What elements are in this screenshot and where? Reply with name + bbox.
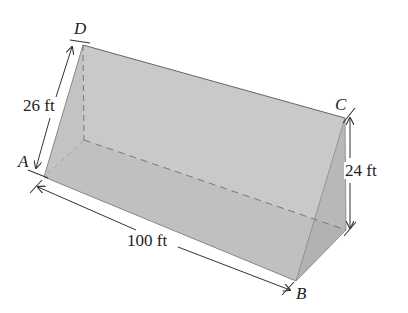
tick-B <box>282 282 294 295</box>
vertex-label-b: B <box>296 285 306 302</box>
dimension-label-100ft: 100 ft <box>126 232 168 249</box>
dimension-label-26ft: 26 ft <box>22 97 56 114</box>
triangular-prism-diagram: D A C B 26 ft 24 ft 100 ft <box>0 0 408 313</box>
dim-line-26ft-lower <box>36 118 50 168</box>
vertex-label-d: D <box>74 20 86 37</box>
dimension-label-24ft: 24 ft <box>344 162 378 179</box>
prism-drawing <box>0 0 408 313</box>
tick-D <box>70 40 90 43</box>
slanted-ramp-face <box>44 45 345 281</box>
vertex-label-a: A <box>18 153 28 170</box>
tick-A-bottom <box>30 180 42 193</box>
vertex-label-c: C <box>335 96 346 113</box>
